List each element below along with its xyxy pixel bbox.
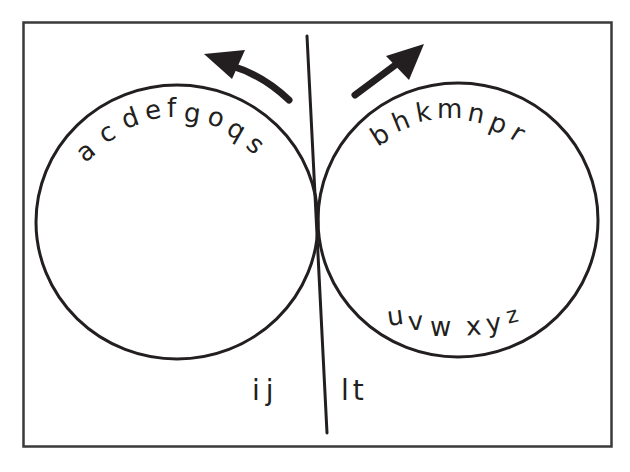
right-circle	[318, 83, 598, 357]
letter: k	[413, 96, 433, 128]
letter: e	[142, 94, 163, 126]
letter: h	[388, 104, 415, 138]
right-arc-letters: b h k m n p r	[365, 94, 531, 152]
letter: a	[70, 135, 101, 168]
diagram-canvas: a c d e f g o q s b h k m n p r u v w x …	[0, 0, 630, 472]
letter: o	[204, 100, 228, 133]
right-bottom-letters: u v w x y z	[385, 300, 521, 342]
letter: q	[222, 112, 251, 146]
letter: x	[465, 311, 482, 342]
letter: y	[484, 307, 503, 339]
letter: c	[93, 116, 120, 149]
right-arrow-icon	[355, 44, 424, 95]
left-circle	[36, 85, 318, 359]
letter: u	[385, 300, 405, 332]
letter: n	[465, 97, 487, 130]
letter: d	[117, 101, 143, 135]
letter: v	[407, 306, 424, 337]
letter: r	[505, 117, 530, 148]
letter-sort-diagram: a c d e f g o q s b h k m n p r u v w x …	[0, 0, 630, 472]
outside-left-letters: ij	[252, 374, 280, 407]
left-arrow-icon	[204, 50, 289, 100]
letter: z	[503, 301, 520, 328]
letter: p	[485, 106, 512, 140]
letter: m	[437, 94, 462, 124]
letter: g	[182, 97, 203, 129]
letter: b	[365, 118, 395, 152]
letter: f	[167, 93, 177, 123]
letter: s	[241, 129, 271, 160]
outside-right-letters: lt	[341, 374, 368, 407]
letter: w	[430, 312, 451, 342]
left-arc-letters: a c d e f g o q s	[70, 93, 271, 168]
